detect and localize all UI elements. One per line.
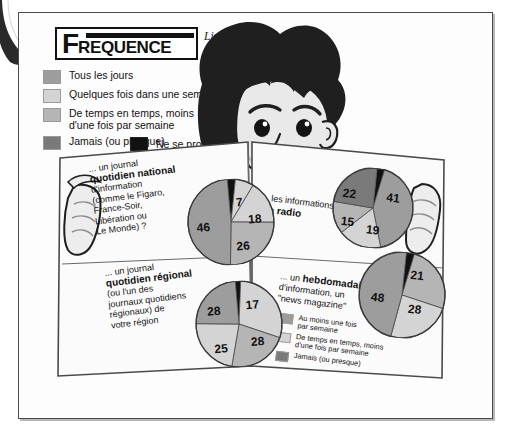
pie-chart-regional: 17 28 25 28 [190, 277, 287, 371]
pie-value: 46 [196, 220, 211, 235]
infographic-page: F REQUENCE Lisez-vous ou écoutez-vous...… [0, 0, 509, 434]
pie-value: 22 [342, 186, 357, 201]
legend-label: Tous les jours [69, 69, 133, 81]
legend-swatch-weekly [43, 89, 61, 103]
pie-value: 19 [365, 222, 380, 237]
pie-value: 7 [235, 195, 243, 210]
pie-value: 28 [207, 304, 222, 319]
pie-chart-hebdo: 21 28 48 [354, 248, 451, 343]
pie-value: 18 [248, 211, 263, 226]
panel-national-text: ... un journal quotidien national d'info… [88, 152, 192, 237]
pie-value: 28 [250, 334, 265, 349]
pie-value: 48 [370, 290, 385, 305]
pie-value: 15 [340, 214, 355, 229]
pie-value: 17 [245, 297, 260, 312]
pie-value: 25 [214, 341, 229, 356]
legend-swatch-occasional [43, 108, 61, 122]
pie-value: 26 [236, 238, 251, 253]
pie-value: 28 [407, 302, 422, 317]
panel-line-bold: radio [276, 205, 302, 219]
title-initial: F [62, 30, 78, 58]
legend-swatch-daily [43, 70, 61, 84]
pie-chart-national: 7 18 26 46 [181, 175, 280, 269]
pie-value: 21 [410, 268, 425, 283]
pie-value: 41 [386, 190, 401, 205]
pie-chart-radio: 41 19 15 22 [326, 164, 420, 253]
